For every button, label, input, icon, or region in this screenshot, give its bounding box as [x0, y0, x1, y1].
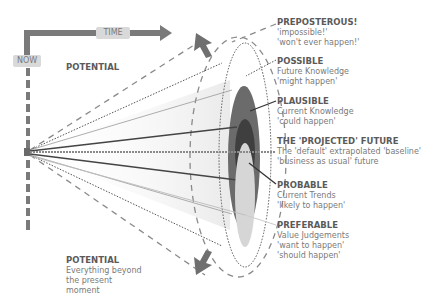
label-projected: THE 'PROJECTED' FUTURE The 'default' ext…	[277, 136, 421, 167]
expand-down-arrow-icon	[194, 250, 212, 275]
label-possible: POSSIBLE Future Knowledge 'might happen'	[277, 56, 349, 87]
expand-up-arrow-icon	[194, 33, 212, 58]
time-arrow-icon	[160, 25, 172, 41]
label-plausible: PLAUSIBLE Current Knowledge 'could happe…	[277, 96, 354, 127]
time-label: TIME	[96, 27, 130, 39]
potential-bottom-label: POTENTIAL Everything beyond the present …	[66, 255, 142, 296]
label-probable: PROBABLE Current Trends 'likely to happe…	[277, 180, 345, 211]
label-preposterous: PREPOSTEROUS! 'impossible!' 'won't ever …	[277, 17, 360, 48]
now-label: NOW	[13, 55, 41, 67]
potential-top-label: POTENTIAL	[66, 62, 119, 73]
cone-fill	[28, 80, 230, 230]
label-preferable: PREFERABLE Value Judgements 'want to hap…	[277, 220, 349, 261]
preferable-area	[235, 143, 255, 247]
